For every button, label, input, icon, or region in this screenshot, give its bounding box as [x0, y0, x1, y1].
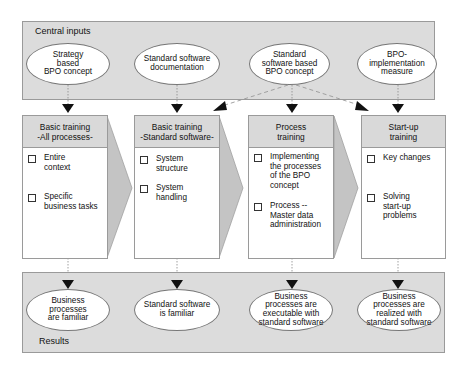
arrowhead-icon: [62, 280, 404, 289]
result-processes-executable: Business processes are executable with s…: [249, 289, 333, 331]
result-processes-realized: Business processes are realized with sta…: [357, 289, 441, 331]
result-standard-software-familiar: Standard software is familiar: [134, 289, 220, 331]
result-business-processes-familiar: Business processes are familiar: [26, 289, 110, 331]
